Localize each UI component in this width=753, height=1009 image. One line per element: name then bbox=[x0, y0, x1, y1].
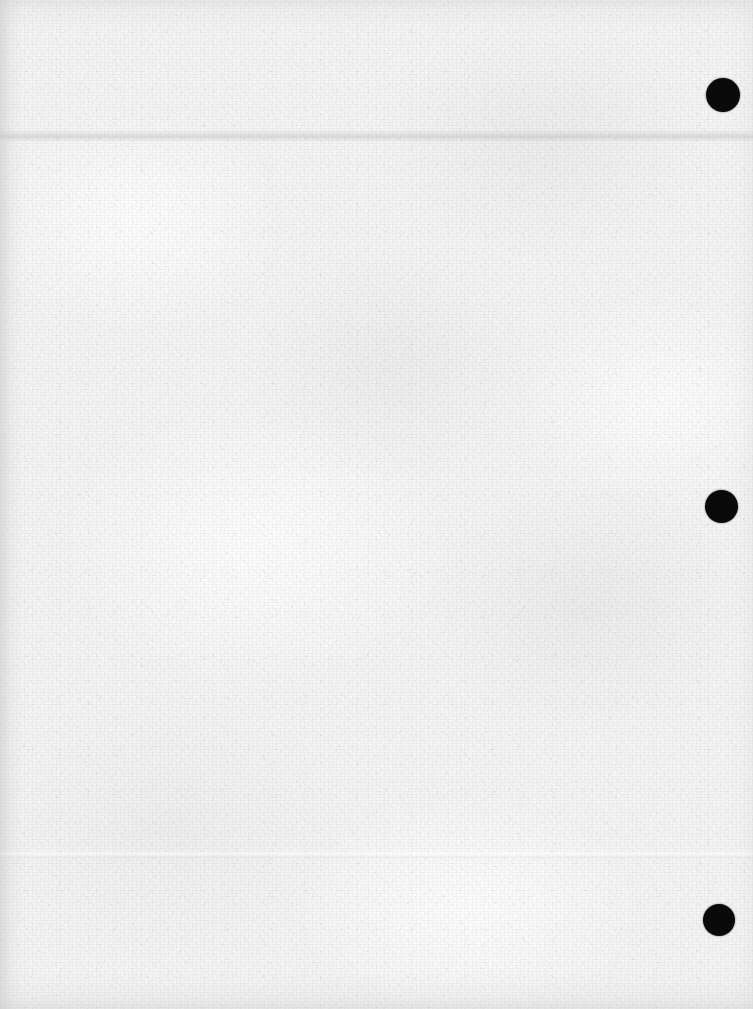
scanned-page bbox=[0, 0, 753, 1009]
punch-hole-bottom bbox=[703, 904, 735, 936]
punch-hole-top bbox=[706, 78, 740, 112]
paper-speckle-texture bbox=[0, 0, 753, 1009]
punch-hole-middle bbox=[705, 490, 738, 523]
